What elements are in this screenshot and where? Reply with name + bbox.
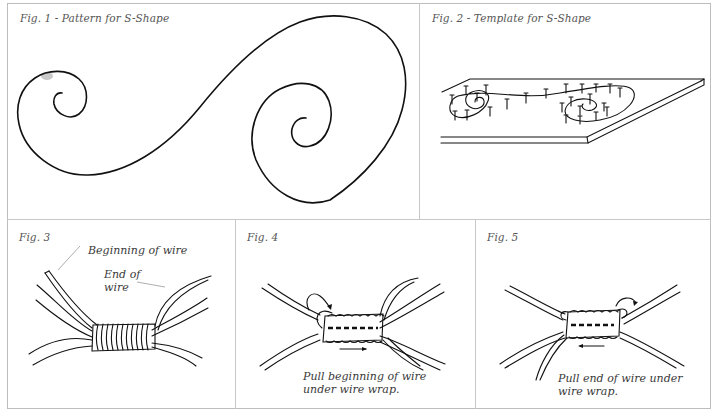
arrowhead <box>578 344 583 348</box>
coil-bumps <box>569 311 618 339</box>
curved-arrow-icon <box>616 298 636 306</box>
fig4-panel: Fig. 4 Pull beginning of wire under wire… <box>236 220 476 409</box>
wire-wrap-fig3-drawing <box>7 220 236 409</box>
curved-arrow-icon <box>307 294 330 310</box>
coil-turns <box>97 324 149 350</box>
template-board-drawing <box>420 3 711 220</box>
fig5-panel: Fig. 5 Pull end of wire under wire wrap. <box>476 220 711 409</box>
s-shape-pattern-drawing <box>7 3 420 220</box>
fig3-panel: Fig. 3 Beginning of wire End of wire <box>7 220 236 409</box>
fig1-panel: Fig. 1 - Pattern for S-Shape <box>7 3 420 220</box>
wire-wrap-fig4-drawing <box>236 220 476 409</box>
fig2-panel: Fig. 2 - Template for S-Shape <box>420 3 711 220</box>
arrowhead <box>362 347 367 351</box>
wire-wrap-fig5-drawing <box>476 220 711 409</box>
arrowhead <box>633 301 638 306</box>
